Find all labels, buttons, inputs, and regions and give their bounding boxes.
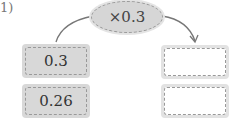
left-arc (56, 16, 93, 42)
answer-box-2[interactable] (161, 84, 229, 118)
input-value-2: 0.26 (39, 92, 72, 110)
right-arc-arrow (162, 16, 195, 41)
operator-label: ×0.3 (109, 8, 145, 26)
input-box-2: 0.26 (22, 84, 90, 118)
input-box-1: 0.3 (22, 44, 90, 78)
operator-ellipse: ×0.3 (91, 1, 163, 33)
answer-box-1[interactable] (161, 45, 229, 79)
input-value-1: 0.3 (44, 52, 68, 70)
problem-number: 1) (0, 0, 13, 15)
